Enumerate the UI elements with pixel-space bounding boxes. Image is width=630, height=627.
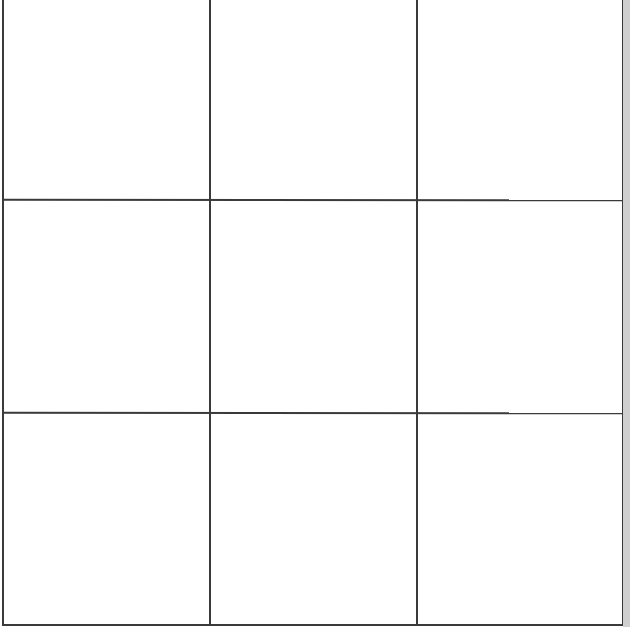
cell-1-1[interactable]: [211, 201, 416, 412]
game-board: [0, 0, 630, 627]
border-bottom: [2, 624, 624, 626]
cell-2-2[interactable]: [418, 414, 622, 624]
window-edge: [623, 0, 630, 627]
cell-2-1[interactable]: [211, 414, 416, 624]
cell-1-0[interactable]: [4, 201, 209, 412]
cell-0-1[interactable]: [211, 0, 416, 199]
cell-2-0[interactable]: [4, 414, 209, 624]
cell-0-2[interactable]: [418, 0, 622, 199]
cell-0-0[interactable]: [4, 0, 209, 199]
cell-1-2[interactable]: [418, 201, 622, 412]
